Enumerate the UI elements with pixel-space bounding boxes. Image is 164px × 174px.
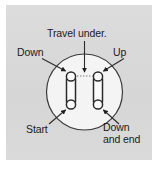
- stitch-diagram-figure: Travel under. Down Up Start Down and end: [0, 0, 164, 174]
- left-stitch-loop: [66, 72, 75, 109]
- label-travel-under: Travel under.: [47, 28, 107, 40]
- label-down-and-end-line2: and end: [103, 134, 140, 146]
- label-up: Up: [113, 47, 126, 59]
- right-stitch-loop: [93, 72, 102, 109]
- label-start: Start: [26, 124, 48, 136]
- label-down: Down: [17, 47, 43, 59]
- label-down-and-end: Down and end: [103, 122, 140, 145]
- label-down-and-end-line1: Down: [103, 121, 129, 133]
